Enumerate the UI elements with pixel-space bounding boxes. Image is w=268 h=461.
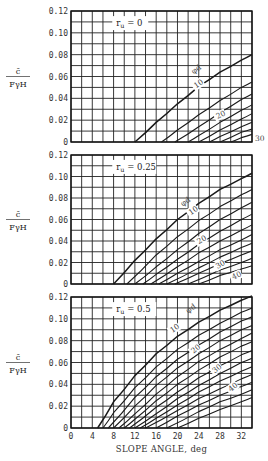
curves bbox=[114, 173, 252, 284]
y-axis-label: c̄FγH bbox=[6, 67, 30, 89]
x-tick-label: 28 bbox=[215, 432, 225, 441]
panel-1: 00.020.040.060.080.100.12c̄FγHru = 0φd10… bbox=[6, 7, 265, 147]
y-tick-label: 0.08 bbox=[49, 194, 68, 203]
svg-text:FγH: FγH bbox=[9, 80, 26, 89]
y-tick-label: 0.02 bbox=[49, 116, 68, 125]
svg-text:c̄: c̄ bbox=[16, 67, 21, 76]
x-tick-label: 0 bbox=[69, 432, 74, 441]
grid bbox=[71, 11, 252, 142]
y-tick-label: 0.02 bbox=[49, 402, 68, 411]
y-tick-label: 0.02 bbox=[49, 259, 68, 268]
y-tick-label: 0.06 bbox=[49, 216, 68, 225]
svg-text:c̄: c̄ bbox=[16, 353, 21, 362]
y-tick-label: 0.04 bbox=[49, 380, 68, 389]
x-tick-label: 12 bbox=[130, 432, 140, 441]
y-tick-label: 0.12 bbox=[49, 151, 68, 160]
panel-2: 00.020.040.060.080.100.12c̄FγHru = 0.25φ… bbox=[6, 151, 252, 289]
y-tick-label: 0.04 bbox=[49, 94, 68, 103]
x-tick-label: 32 bbox=[237, 432, 247, 441]
x-tick-label: 4 bbox=[90, 432, 95, 441]
svg-text:c̄: c̄ bbox=[16, 210, 21, 219]
curve-label-30: 30 bbox=[255, 134, 265, 143]
y-axis-label: c̄FγH bbox=[6, 210, 30, 232]
y-tick-label: 0.10 bbox=[49, 315, 68, 324]
y-tick-label: 0.08 bbox=[49, 51, 68, 60]
x-tick-label: 8 bbox=[111, 432, 116, 441]
x-axis-title: SLOPE ANGLE, deg bbox=[116, 444, 208, 454]
y-tick-label: 0 bbox=[63, 280, 68, 289]
svg-text:FγH: FγH bbox=[9, 366, 26, 375]
curve-φd-15 bbox=[175, 94, 252, 142]
y-tick-label: 0.06 bbox=[49, 73, 68, 82]
stability-chart: 00.020.040.060.080.100.12c̄FγHru = 0φd10… bbox=[0, 0, 268, 461]
panel-3: 00.020.040.060.080.100.12c̄FγHru = 0.5φd… bbox=[6, 293, 252, 454]
y-tick-label: 0.12 bbox=[49, 293, 68, 302]
y-tick-label: 0.08 bbox=[49, 337, 68, 346]
phi-d-label: φd bbox=[189, 63, 203, 76]
curve-φd-65 bbox=[177, 397, 252, 428]
y-tick-label: 0.10 bbox=[49, 29, 68, 38]
curve-φd-40 bbox=[175, 251, 252, 284]
curve-φd-5 bbox=[114, 173, 252, 284]
curve-label-20: 20 bbox=[214, 109, 227, 121]
y-tick-label: 0.06 bbox=[49, 359, 68, 368]
svg-text:FγH: FγH bbox=[9, 223, 26, 232]
y-tick-label: 0 bbox=[63, 424, 68, 433]
x-tick-label: 24 bbox=[194, 432, 204, 441]
curve-φd-25 bbox=[119, 333, 252, 428]
x-tick-label: 16 bbox=[151, 432, 161, 441]
y-tick-label: 0 bbox=[63, 138, 68, 147]
x-tick-label: 20 bbox=[173, 432, 183, 441]
curve-φd-25 bbox=[199, 114, 252, 142]
y-tick-label: 0.04 bbox=[49, 237, 68, 246]
y-axis-label: c̄FγH bbox=[6, 353, 30, 375]
y-tick-label: 0.12 bbox=[49, 7, 68, 16]
phi-d-label: φd bbox=[184, 302, 198, 315]
y-tick-label: 0.10 bbox=[49, 173, 68, 182]
